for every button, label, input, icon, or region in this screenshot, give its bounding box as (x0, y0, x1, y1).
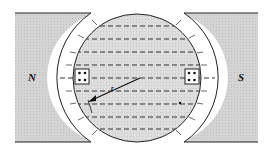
right-slot (185, 69, 199, 84)
point-marker (179, 102, 181, 104)
south-pole-label: S (238, 71, 244, 83)
machine-diagram: N S r (0, 0, 273, 152)
north-pole-label: N (27, 71, 37, 83)
left-slot (75, 69, 89, 84)
radius-label: r (111, 84, 114, 92)
